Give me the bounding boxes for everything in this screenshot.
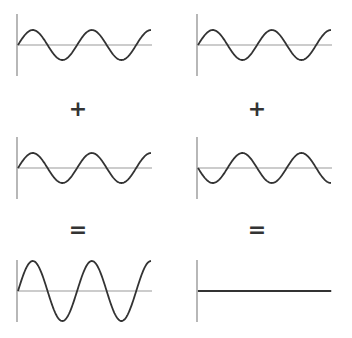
- equals-sign-right: =: [245, 219, 269, 241]
- equals-sign-left: =: [66, 219, 90, 241]
- interference-diagram: [0, 0, 352, 338]
- constructive-wave-b-plot: [17, 137, 152, 199]
- destructive-wave-a-plot: [197, 14, 332, 76]
- destructive-wave-b-plot: [197, 137, 332, 199]
- plus-sign-right: +: [245, 98, 269, 120]
- constructive-sum-plot: [17, 260, 152, 322]
- plus-sign-left: +: [66, 98, 90, 120]
- destructive-sum-plot: [197, 260, 332, 322]
- constructive-wave-a-plot: [17, 14, 152, 76]
